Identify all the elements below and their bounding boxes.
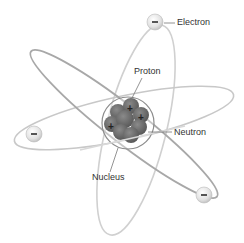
minus-icon <box>201 194 207 196</box>
electron-bottom-right <box>196 187 212 203</box>
proton-plus-icon: + <box>127 103 133 114</box>
atom-illustration: + + + <box>0 0 244 243</box>
electron-top <box>147 14 163 30</box>
proton-plus-icon: + <box>138 112 144 123</box>
atom-diagram: + + + <box>0 0 244 243</box>
minus-icon <box>152 21 158 23</box>
proton-plus-icon: + <box>108 121 114 132</box>
electron-label: Electron <box>177 17 210 27</box>
electron-left <box>26 126 42 142</box>
minus-icon <box>31 133 37 135</box>
nucleus-label: Nucleus <box>92 172 125 182</box>
proton-label: Proton <box>134 66 161 76</box>
neutron-label: Neutron <box>174 127 206 137</box>
